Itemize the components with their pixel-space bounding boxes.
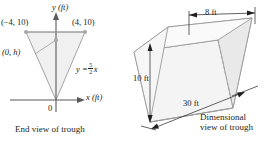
equation-fraction: 52 [88,62,93,75]
equation-variable: x [94,64,98,74]
dimensional-view-diagram: 8 ft 10 ft 30 ft Dimensional view of tro… [132,0,266,147]
water-level-dot [54,38,58,42]
end-view-caption: End view of trough [15,124,85,134]
width-arrowhead-left [189,13,197,18]
x-axis-label: x (ft) [86,93,102,102]
origin-label: 0 [48,104,52,113]
dimensional-view-caption: Dimensional view of trough [200,112,253,133]
width-dimension-line [189,13,255,15]
vertex-dot-top-left [24,30,28,34]
width-arrowhead-right [247,11,255,16]
length-dimension-label: 30 ft [183,99,199,108]
height-dimension-label: 10 ft [133,74,149,83]
end-view-diagram: (−4, 10) (4, 10) (0, h) y (ft) x (ft) 0 … [0,0,132,147]
length-arrowhead-near [151,124,159,130]
width-dimension-label: 8 ft [205,8,217,17]
vertex-dot-top-right [83,30,87,34]
x-axis-arrowhead [77,97,85,103]
dimensional-view-caption-line1: Dimensional [200,112,246,122]
label-water-level-point: (0, h) [2,48,20,57]
y-axis-arrowhead [53,12,59,20]
label-top-left-vertex: (−4, 10) [1,18,28,27]
label-top-right-vertex: (4, 10) [72,18,95,27]
y-axis-label: y (ft) [52,3,68,12]
equation-lhs: y = [76,64,88,74]
trough-figure: (−4, 10) (4, 10) (0, h) y (ft) x (ft) 0 … [0,0,266,147]
dimensional-view-caption-line2: view of trough [200,122,253,132]
equation-denominator: 2 [88,68,93,75]
line-equation-label: y =52x [76,62,97,75]
